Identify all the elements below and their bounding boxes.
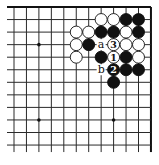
stones-layer: 312 xyxy=(70,14,144,89)
black-stone xyxy=(120,64,132,76)
black-stone: 2 xyxy=(108,64,120,76)
white-stone xyxy=(133,51,145,63)
black-stone xyxy=(133,26,145,38)
white-stone-icon xyxy=(83,26,95,38)
white-stone-icon xyxy=(120,39,132,51)
white-stone-icon xyxy=(95,14,107,26)
white-stone xyxy=(120,39,132,51)
white-stone xyxy=(70,26,82,38)
black-stone-icon xyxy=(108,26,120,38)
white-stone xyxy=(83,26,95,38)
move-number-label: 2 xyxy=(110,64,117,75)
black-stone xyxy=(108,26,120,38)
black-stone xyxy=(120,14,132,26)
black-stone-icon xyxy=(133,26,145,38)
go-board-diagram: 312 ab xyxy=(0,0,159,165)
black-stone xyxy=(83,39,95,51)
black-stone-icon xyxy=(108,76,120,88)
white-stone-icon xyxy=(70,26,82,38)
black-stone-icon xyxy=(95,26,107,38)
white-stone-icon xyxy=(70,51,82,63)
black-stone xyxy=(95,51,107,63)
black-stone-icon xyxy=(120,51,132,63)
white-stone-icon xyxy=(120,26,132,38)
star-point-icon xyxy=(112,118,116,122)
black-stone xyxy=(120,51,132,63)
move-number-label: 3 xyxy=(110,39,117,50)
point-label-a: a xyxy=(98,38,105,51)
move-number-label: 1 xyxy=(110,52,117,63)
white-stone xyxy=(70,39,82,51)
black-stone-icon xyxy=(95,51,107,63)
black-stone xyxy=(95,26,107,38)
black-stone-icon xyxy=(133,64,145,76)
black-stone-icon xyxy=(83,39,95,51)
white-stone xyxy=(133,39,145,51)
black-stone-icon xyxy=(133,14,145,26)
white-stone xyxy=(120,26,132,38)
white-stone xyxy=(108,14,120,26)
white-stone xyxy=(95,14,107,26)
white-stone: 1 xyxy=(108,51,120,63)
star-point-icon xyxy=(37,118,41,122)
black-stone-icon xyxy=(120,14,132,26)
black-stone xyxy=(133,14,145,26)
point-label-b: b xyxy=(98,63,105,76)
white-stone: 3 xyxy=(108,39,120,51)
white-stone-icon xyxy=(133,39,145,51)
black-stone-icon xyxy=(120,64,132,76)
black-stone xyxy=(133,64,145,76)
black-stone xyxy=(108,76,120,88)
star-point-icon xyxy=(37,43,41,47)
white-stone-icon xyxy=(108,14,120,26)
white-stone-icon xyxy=(70,39,82,51)
white-stone-icon xyxy=(133,51,145,63)
white-stone xyxy=(70,51,82,63)
